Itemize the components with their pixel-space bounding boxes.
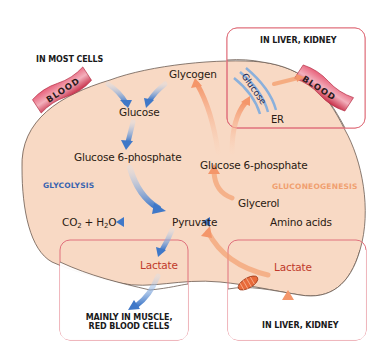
o-text: O [108, 216, 116, 228]
metabolite-glucose: Glucose [119, 107, 159, 118]
metabolite-pyruvate: Pyruvate [172, 217, 217, 228]
metabolite-co2-h2o: CO2 + H2O [62, 217, 116, 230]
label-er: ER [271, 115, 284, 125]
metabolite-lactate-left: Lactate [140, 260, 178, 271]
metabolite-lactate-right: Lactate [274, 262, 312, 273]
pathway-diagram [0, 0, 391, 360]
label-in-most-cells: IN MOST CELLS [36, 55, 103, 64]
metabolite-glucose-6-phosphate-left: Glucose 6-phosphate [74, 152, 181, 163]
label-muscle-rbc-line1: MAINLY IN MUSCLE, [80, 313, 178, 322]
metabolite-glycerol: Glycerol [238, 198, 279, 209]
metabolite-glycogen: Glycogen [169, 69, 217, 80]
label-in-liver-kidney-top: IN LIVER, KIDNEY [260, 36, 337, 45]
cell-membrane [22, 61, 365, 296]
label-gluconeogenesis: GLUCONEOGENESIS [272, 182, 358, 191]
co2-text: CO [62, 216, 77, 228]
label-glycolysis: GLYCOLYSIS [43, 181, 94, 190]
label-in-liver-kidney-bottom: IN LIVER, KIDNEY [262, 321, 339, 330]
label-muscle-rbc: MAINLY IN MUSCLE, RED BLOOD CELLS [80, 313, 178, 331]
metabolite-amino-acids: Amino acids [270, 217, 332, 228]
label-muscle-rbc-line2: RED BLOOD CELLS [80, 322, 178, 331]
metabolite-glucose-6-phosphate-right: Glucose 6-phosphate [200, 160, 307, 171]
plus-h-text: + H [81, 216, 104, 228]
